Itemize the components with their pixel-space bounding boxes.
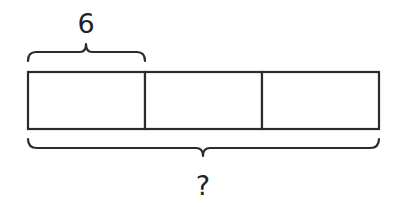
part-brace bbox=[28, 44, 145, 61]
part-label: 6 bbox=[77, 8, 94, 39]
tape-part-3 bbox=[262, 72, 379, 129]
tape-diagram-svg: 6 ? bbox=[0, 0, 416, 207]
tape-bar bbox=[28, 72, 379, 129]
tape-part-2 bbox=[145, 72, 262, 129]
tape-part-1 bbox=[28, 72, 145, 129]
whole-label: ? bbox=[196, 170, 210, 201]
whole-brace bbox=[28, 139, 379, 156]
tape-diagram-canvas: 6 ? bbox=[0, 0, 416, 207]
